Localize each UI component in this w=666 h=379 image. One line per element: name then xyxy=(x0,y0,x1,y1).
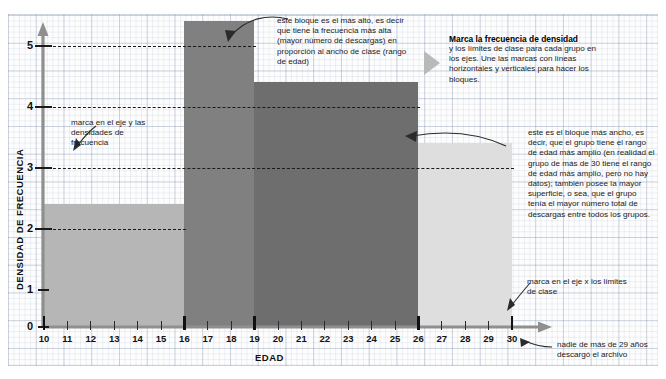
ytick-label-5: 5 xyxy=(19,39,33,51)
xtick-mark-22 xyxy=(324,321,325,330)
xtick-label-27: 27 xyxy=(433,333,451,344)
xtick-mark-28 xyxy=(465,321,466,330)
callout-title: Marca la frecuencia de densidad xyxy=(449,34,597,44)
xtick-label-11: 11 xyxy=(58,333,76,344)
y-axis-title: DENSIDAD DE FRECUENCIA xyxy=(14,149,25,290)
dashline-y4 xyxy=(38,107,420,108)
xtick-mark-24 xyxy=(371,321,372,330)
xtick-label-25: 25 xyxy=(386,333,404,344)
xtick-mark-27 xyxy=(441,321,442,330)
xtick-label-23: 23 xyxy=(339,333,357,344)
dashline-y3 xyxy=(38,168,514,169)
annotation-x-axis-mark: marca en el eje x los límites de clase xyxy=(527,277,637,297)
callout-body: y los límites de clase para cada grupo e… xyxy=(449,44,597,85)
xtick-mark-21 xyxy=(301,321,302,330)
xtick-label-26: 26 xyxy=(409,333,427,344)
xtick-label-19: 19 xyxy=(246,333,264,344)
xtick-mark-18 xyxy=(231,321,232,330)
bar-19-26 xyxy=(254,82,418,326)
xtick-mark-25 xyxy=(395,321,396,330)
bar-16-19 xyxy=(184,21,254,326)
xtick-label-14: 14 xyxy=(129,333,147,344)
xtick-mark-10 xyxy=(43,316,46,330)
ytick-mark-2 xyxy=(35,228,52,230)
annotation-widest-block: este es el bloque más ancho, es decir, q… xyxy=(528,128,656,220)
xtick-label-17: 17 xyxy=(199,333,217,344)
xtick-label-10: 10 xyxy=(35,333,53,344)
xtick-mark-16 xyxy=(183,316,186,330)
xtick-mark-29 xyxy=(488,321,489,330)
xtick-mark-15 xyxy=(161,321,162,330)
xtick-label-22: 22 xyxy=(316,333,334,344)
xtick-label-30: 30 xyxy=(503,333,521,344)
xtick-mark-14 xyxy=(137,321,138,330)
xtick-label-28: 28 xyxy=(456,333,474,344)
xtick-mark-30 xyxy=(511,316,514,330)
xtick-mark-20 xyxy=(278,321,279,330)
triangle-right-icon xyxy=(422,48,442,78)
xtick-label-13: 13 xyxy=(105,333,123,344)
xtick-label-20: 20 xyxy=(269,333,287,344)
xtick-label-29: 29 xyxy=(480,333,498,344)
figure-page: 5 4 3 2 1 0 DENSIDAD DE FRECUENCIA 10111… xyxy=(0,0,666,379)
annotation-y-axis-mark: marca en el eje y las densidades de frec… xyxy=(71,118,159,149)
ytick-mark-4 xyxy=(35,106,52,108)
xtick-label-18: 18 xyxy=(222,333,240,344)
ytick-label-0: 0 xyxy=(19,320,33,332)
callout-block: Marca la frecuencia de densidad y los lí… xyxy=(422,34,597,85)
x-axis-title: EDAD xyxy=(255,352,284,363)
annotation-top-block: este bloque es el más alto, es decir que… xyxy=(277,16,417,67)
xtick-label-16: 16 xyxy=(175,333,193,344)
xtick-label-24: 24 xyxy=(363,333,381,344)
xtick-label-21: 21 xyxy=(292,333,310,344)
xtick-mark-26 xyxy=(417,316,420,330)
ytick-mark-1 xyxy=(38,289,49,291)
ytick-mark-3 xyxy=(35,167,52,169)
histogram-plot: 5 4 3 2 1 0 DENSIDAD DE FRECUENCIA 10111… xyxy=(0,0,666,379)
bar-26-30 xyxy=(418,143,512,326)
dashline-y5 xyxy=(38,46,256,47)
xtick-mark-12 xyxy=(90,321,91,330)
xtick-mark-13 xyxy=(114,321,115,330)
xtick-mark-23 xyxy=(348,321,349,330)
annotation-no-data: nadie de más de 29 años descargó el arch… xyxy=(557,340,661,360)
xtick-mark-17 xyxy=(207,321,208,330)
ytick-mark-5 xyxy=(35,45,52,47)
ytick-label-4: 4 xyxy=(19,100,33,112)
xtick-label-15: 15 xyxy=(152,333,170,344)
xtick-mark-11 xyxy=(67,321,68,330)
xtick-mark-19 xyxy=(253,316,256,330)
xtick-label-12: 12 xyxy=(82,333,100,344)
bar-10-16 xyxy=(44,204,184,326)
dashline-y2 xyxy=(38,229,186,230)
